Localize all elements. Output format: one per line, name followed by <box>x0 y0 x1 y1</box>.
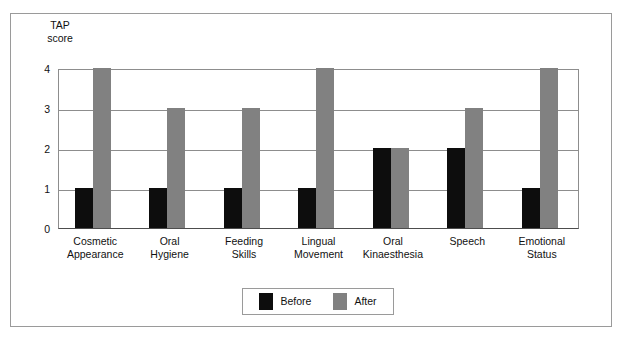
y-tick-label: 3 <box>22 104 50 115</box>
x-category-label: Emotional Status <box>493 235 591 260</box>
y-tick-label: 4 <box>22 64 50 75</box>
bar-before <box>373 148 391 228</box>
bar-after <box>93 68 111 228</box>
bar-group <box>357 70 431 228</box>
bar-group <box>59 70 133 228</box>
bar-group <box>133 70 207 228</box>
legend-label: After <box>354 296 376 307</box>
bar-before <box>149 188 167 228</box>
legend-item: Before <box>259 293 311 310</box>
bar-before <box>224 188 242 228</box>
bar-before <box>75 188 93 228</box>
bar-before <box>522 188 540 228</box>
y-tick-label: 0 <box>22 224 50 235</box>
bar-before <box>298 188 316 228</box>
bar-after <box>167 108 185 228</box>
y-tick-label: 1 <box>22 184 50 195</box>
legend-label: Before <box>280 296 311 307</box>
bar-before <box>447 148 465 228</box>
bar-group <box>506 70 580 228</box>
plot-area <box>58 69 579 229</box>
y-tick-label: 2 <box>22 144 50 155</box>
bar-after <box>242 108 260 228</box>
bar-after <box>465 108 483 228</box>
legend-swatch-icon <box>333 293 347 310</box>
bar-after <box>316 68 334 228</box>
bar-after <box>391 148 409 228</box>
bar-group <box>282 70 356 228</box>
chart-frame: TAP score 01234 Cosmetic AppearanceOral … <box>10 13 612 327</box>
y-axis-title: TAP score <box>29 19 91 44</box>
bars-layer <box>59 70 578 228</box>
chart-legend: BeforeAfter <box>242 288 394 315</box>
legend-swatch-icon <box>259 293 273 310</box>
bar-after <box>540 68 558 228</box>
bar-group <box>208 70 282 228</box>
bar-group <box>431 70 505 228</box>
legend-item: After <box>333 293 376 310</box>
